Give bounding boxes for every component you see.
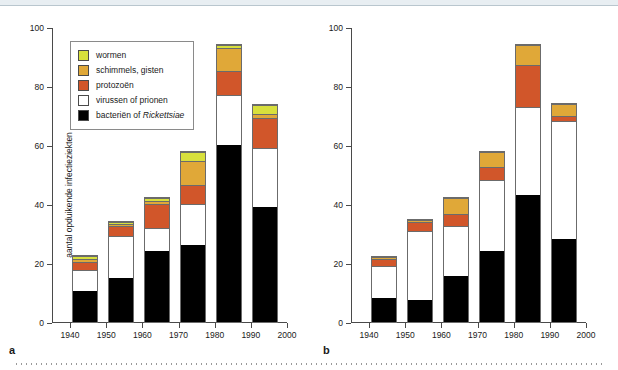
x-tick-b [441,323,442,328]
x-tick-b [478,323,479,328]
legend-label: wormen [96,51,126,60]
panel-letter-a: a [9,344,15,356]
y-tick-label-b: 0 [338,318,343,328]
bar-segment [516,45,540,66]
bar-segment [145,251,169,322]
x-tick-label-a: 1940 [61,330,80,340]
bar-segment [181,185,205,204]
legend-swatch-icon [78,50,89,61]
legend-item-a-0: wormen [78,48,184,63]
y-tick-b [346,323,351,324]
bar-segment [253,105,277,114]
bar-segment [480,180,504,251]
x-tick-b [405,323,406,328]
bar-segment [480,152,504,167]
bar-b-1990 [551,103,577,323]
bar-segment [253,148,277,207]
legend-swatch-icon [78,80,89,91]
y-tick-b [346,28,351,29]
x-tick-b [369,323,370,328]
x-tick-label-b: 2000 [577,330,596,340]
x-tick-label-a: 1980 [205,330,224,340]
bar-segment [217,71,241,95]
bar-segment [253,207,277,322]
x-tick-label-a: 1960 [133,330,152,340]
y-axis-b [351,28,352,323]
y-tick-label-a: 100 [30,23,44,33]
legend-label: protozoën [96,81,134,90]
legend-a: wormenschimmels, gistenprotozoënvirussen… [70,41,194,130]
x-tick-label-a: 1950 [97,330,116,340]
bar-b-1960 [443,197,469,323]
x-tick-a [106,323,107,328]
bar-segment [109,226,133,236]
x-tick-label-b: 1960 [432,330,451,340]
bar-b-1950 [407,219,433,323]
y-tick-label-b: 40 [334,200,343,210]
x-tick-a [179,323,180,328]
x-tick-label-a: 1970 [169,330,188,340]
bar-a-1960 [144,197,170,323]
x-tick-b [586,323,587,328]
bar-segment [408,222,432,231]
bar-segment [480,251,504,322]
legend-swatch-icon [78,65,89,76]
bar-segment [552,104,576,116]
y-tick-label-b: 60 [334,141,343,151]
legend-item-a-1: schimmels, gisten [78,63,184,78]
bar-a-1990 [252,104,278,323]
y-tick-a [47,205,52,206]
legend-item-a-3: virussen of prionen [78,93,184,108]
y-tick-a [47,323,52,324]
y-tick-label-b: 20 [334,259,343,269]
y-axis-a [52,28,53,323]
bar-segment [181,245,205,322]
x-tick-label-a: 2000 [278,330,297,340]
bar-segment [372,266,396,298]
legend-label: bacteriën of Rickettsiae [96,111,184,120]
plot-area-b: 0204060801001940195019601970198019902000 [351,28,586,323]
x-tick-label-a: 1990 [241,330,260,340]
bar-segment [552,121,576,239]
panel-a: aantal opduikende infectieziekten 020406… [0,6,309,370]
bar-segment [181,161,205,185]
y-tick-a [47,264,52,265]
y-tick-label-b: 80 [334,82,343,92]
bar-segment [181,204,205,245]
bar-segment [408,300,432,322]
x-tick-label-b: 1950 [396,330,415,340]
x-tick-b [550,323,551,328]
y-tick-label-a: 40 [35,200,44,210]
y-tick-label-a: 60 [35,141,44,151]
y-tick-b [346,264,351,265]
bar-b-1940 [371,256,397,323]
y-tick-a [47,28,52,29]
y-tick-label-a: 20 [35,259,44,269]
legend-item-a-2: protozoën [78,78,184,93]
bar-segment [145,228,169,252]
bar-segment [217,145,241,322]
bar-a-1970 [180,151,206,323]
x-tick-a [215,323,216,328]
y-tick-label-a: 80 [35,82,44,92]
bar-segment [217,95,241,145]
x-tick-a [287,323,288,328]
x-tick-a [142,323,143,328]
bar-segment [516,65,540,106]
bar-segment [444,226,468,276]
x-tick-label-b: 1940 [360,330,379,340]
bar-segment [253,118,277,148]
footer-dotted-rule [14,363,606,365]
legend-swatch-icon [78,95,89,106]
legend-label: virussen of prionen [96,96,168,105]
bar-segment [516,195,540,322]
bar-segment [480,167,504,180]
bar-a-1940 [72,255,98,323]
bar-segment [444,214,468,226]
x-tick-a [70,323,71,328]
panel-letter-b: b [323,344,330,356]
bar-segment [73,291,97,322]
bar-segment [73,262,97,271]
y-tick-a [47,146,52,147]
y-tick-b [346,146,351,147]
